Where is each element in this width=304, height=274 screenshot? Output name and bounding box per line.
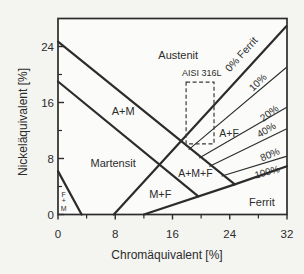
region-label-martensit: Martensit [90, 157, 135, 169]
region-label-austenit: Austenit [158, 49, 198, 61]
schaeffler-diagram: 08162432081624AISI 316LAustenitA+MMarten… [0, 0, 304, 274]
x-axis-title: Chromäquivalent [%] [111, 248, 222, 262]
y-tick-label-16: 16 [41, 97, 54, 109]
y-tick-label-24: 24 [41, 41, 54, 53]
region-label-m-f: M+F [149, 188, 172, 200]
aisi-316l-label: AISI 316L [182, 68, 222, 78]
region-label-m: M [61, 205, 67, 212]
x-tick-label-0: 0 [55, 228, 61, 240]
y-axis-title: Nickeläquivalent [%] [16, 68, 30, 176]
region-label-a-f: A+F [219, 127, 239, 139]
y-tick-label-0: 0 [48, 209, 54, 221]
region-label-ferrit: Ferrit [249, 196, 275, 208]
x-tick-label-24: 24 [223, 228, 236, 240]
region-label-a-m-f: A+M+F [178, 167, 212, 179]
x-tick-label-32: 32 [281, 228, 294, 240]
region-label--: + [62, 197, 66, 204]
y-tick-label-8: 8 [48, 153, 54, 165]
region-label-a-m: A+M [112, 105, 135, 117]
x-tick-label-8: 8 [112, 228, 118, 240]
x-tick-label-16: 16 [166, 228, 179, 240]
